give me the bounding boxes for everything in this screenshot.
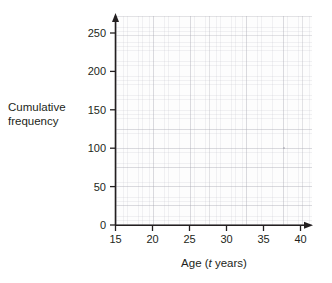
y-axis [112, 13, 119, 225]
axes-lines [0, 0, 332, 283]
x-tick-label-20: 20 [146, 234, 158, 245]
x-tick-label-30: 30 [220, 234, 232, 245]
x-tick-label-15: 15 [109, 234, 121, 245]
y-axis-title: Cumulative frequency [8, 100, 94, 128]
x-axis [116, 222, 314, 229]
x-tick-label-35: 35 [257, 234, 269, 245]
x-axis-title-suffix: years) [212, 257, 247, 269]
y-tick-label-250: 250 [78, 28, 106, 39]
x-axis-title: Age (t years) [116, 256, 312, 270]
y-tick-label-100: 100 [78, 143, 106, 154]
x-axis-title-prefix: Age ( [181, 257, 209, 269]
y-tick-label-0: 0 [78, 220, 106, 231]
y-axis-title-line2: frequency [8, 114, 94, 128]
y-tick-label-50: 50 [78, 181, 106, 192]
x-tick-label-25: 25 [183, 234, 195, 245]
y-axis-title-line1: Cumulative [8, 100, 94, 114]
cumulative-frequency-chart: 250 200 150 100 50 0 15 20 25 30 35 40 C… [0, 0, 332, 283]
x-tick-label-40: 40 [294, 234, 306, 245]
y-tick-label-200: 200 [78, 66, 106, 77]
